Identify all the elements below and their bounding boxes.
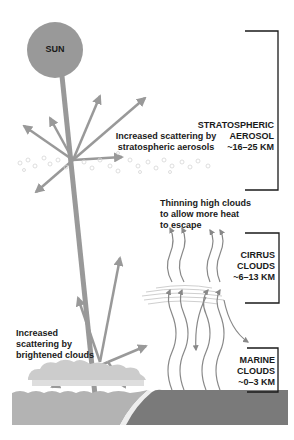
cirrus-cloud-layer xyxy=(142,286,224,305)
cirrus-clouds-layer-label: CIRRUS CLOUDS ~6–13 KM xyxy=(220,250,275,283)
stratospheric-aerosol-layer-label: STRATOSPHERIC AEROSOL ~16–25 KM xyxy=(190,120,274,153)
marine-cloud-shape xyxy=(28,360,146,386)
brightened-clouds-label: Increased scattering by brightened cloud… xyxy=(16,328,106,361)
marine-clouds-layer-label: MARINE CLOUDS ~0–3 KM xyxy=(220,355,275,388)
thinning-high-clouds-label: Thinning high clouds to allow more heat … xyxy=(160,198,280,231)
land xyxy=(126,390,288,425)
aerosol-layer xyxy=(18,152,210,174)
bracket-stratospheric xyxy=(245,31,278,190)
geoengineering-diagram: SUN Increased scattering by stratospheri… xyxy=(0,0,294,440)
sun-label: SUN xyxy=(38,44,72,54)
